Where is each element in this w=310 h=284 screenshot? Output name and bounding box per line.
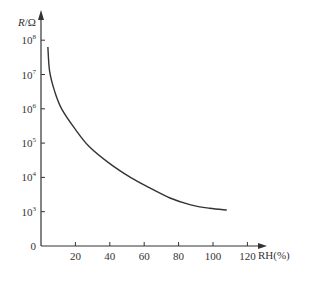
y-tick-label: 106 [22,102,37,115]
y-tick-label: 108 [22,33,37,46]
chart: 204060801001200103104105106107108 R/Ω RH… [0,0,310,284]
axes [38,10,267,249]
x-tick-label: 40 [104,250,116,262]
data-curve [48,47,227,210]
x-tick-label: 120 [239,250,256,262]
y-tick-label: 0 [31,240,37,252]
y-axis-arrow-icon [38,10,44,20]
x-tick-label: 20 [70,250,82,262]
x-tick-label: 100 [205,250,222,262]
y-tick-label: 107 [22,68,37,81]
y-tick-label: 103 [22,205,37,218]
x-tick-label: 80 [173,250,185,262]
y-tick-label: 105 [22,136,37,149]
y-axis-label: R/Ω [17,16,36,28]
ticks: 204060801001200103104105106107108 [22,33,257,262]
x-tick-label: 60 [139,250,151,262]
y-tick-label: 104 [22,170,37,183]
x-axis-label: RH(%) [258,249,290,262]
